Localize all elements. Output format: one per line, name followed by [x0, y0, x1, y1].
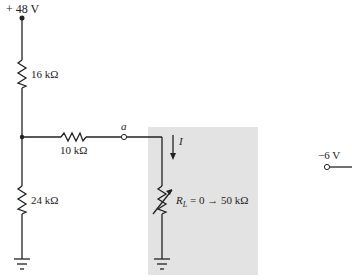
r16k-label: 16 kΩ	[31, 69, 58, 80]
load-symbol: R	[176, 194, 183, 206]
terminal-circle	[324, 164, 329, 169]
load-range: = 0 → 50 kΩ	[187, 194, 248, 206]
load-label: RL = 0 → 50 kΩ	[176, 195, 248, 209]
circuit-diagram	[0, 0, 352, 280]
supply-dot	[20, 16, 25, 21]
r10k-label: 10 kΩ	[60, 145, 87, 156]
resistor-16k	[18, 60, 26, 88]
resistor-10k	[61, 133, 86, 141]
node-a-label: a	[121, 121, 127, 132]
junction-dot	[20, 135, 24, 139]
node-a-circle	[121, 134, 126, 139]
terminal-label: −6 V	[318, 150, 340, 161]
resistor-24k	[18, 186, 26, 214]
current-label: I	[179, 136, 183, 147]
r24k-label: 24 kΩ	[31, 195, 58, 206]
supply-label: + 48 V	[6, 3, 39, 15]
